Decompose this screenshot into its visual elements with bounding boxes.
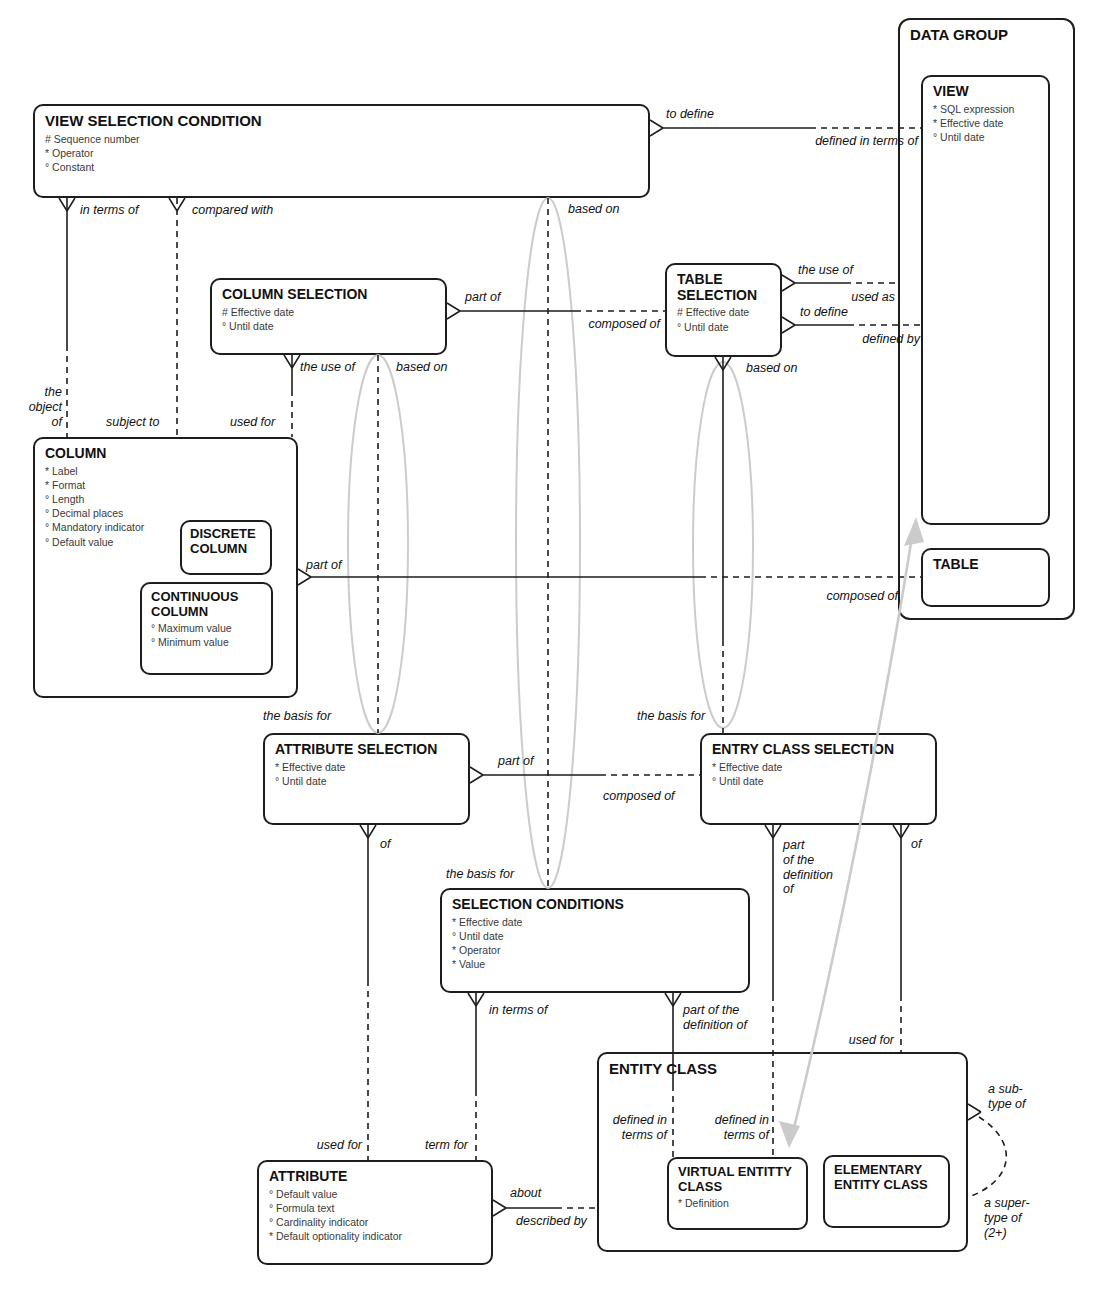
- entity-attribute-selection: ATTRIBUTE SELECTION * Effective date ° U…: [263, 733, 470, 825]
- rel-label-composed-of-table: composed of: [810, 589, 898, 604]
- entity-attribute: * Default optionality indicator: [269, 1229, 481, 1243]
- entity-virtual-entity-class: VIRTUAL ENTITTY CLASS * Definition: [667, 1157, 808, 1230]
- entity-title: ENTITY CLASS: [609, 1061, 956, 1078]
- rel-label-used-as: used as: [830, 290, 895, 305]
- entity-attribute: * Effective date: [275, 760, 458, 774]
- rel-label-part-of-attrsel: part of: [498, 754, 533, 769]
- entity-title: VIRTUAL ENTITTY CLASS: [678, 1165, 797, 1194]
- entity-attribute: ATTRIBUTE ° Default value ° Formula text…: [257, 1160, 493, 1265]
- er-diagram-canvas: VIEW SELECTION CONDITION # Sequence numb…: [0, 0, 1096, 1293]
- entity-attribute: ° Maximum value: [151, 621, 262, 635]
- entity-entry-class-selection: ENTRY CLASS SELECTION * Effective date °…: [700, 733, 937, 825]
- entity-title: DISCRETE COLUMN: [190, 527, 262, 556]
- entity-attribute: * Effective date: [452, 915, 738, 929]
- entity-attribute: * Value: [452, 957, 738, 971]
- entity-title: SELECTION CONDITIONS: [452, 897, 738, 913]
- entity-discrete-column: DISCRETE COLUMN: [180, 520, 272, 575]
- entity-attribute: ° Decimal places: [45, 506, 286, 520]
- rel-label-the-object-of: the object of: [18, 385, 62, 429]
- entity-continuous-column: CONTINUOUS COLUMN ° Maximum value ° Mini…: [140, 582, 273, 675]
- rel-label-a-sub-type-of: a sub- type of: [988, 1082, 1026, 1112]
- entity-view: VIEW * SQL expression * Effective date °…: [921, 75, 1050, 525]
- entity-title: VIEW: [933, 84, 1038, 100]
- entity-table-selection: TABLE SELECTION # Effective date ° Until…: [665, 263, 782, 357]
- entity-title: TABLE SELECTION: [677, 272, 770, 303]
- entity-attribute: # Effective date: [222, 305, 435, 319]
- entity-attribute: * Label: [45, 464, 286, 478]
- entity-title: ATTRIBUTE: [269, 1169, 481, 1185]
- rel-label-part-of-def-entrysel: part of the definition of: [783, 838, 833, 897]
- entity-title: ELEMENTARY ENTITY CLASS: [834, 1163, 939, 1192]
- entity-attribute: # Effective date: [677, 305, 770, 319]
- rel-label-to-define-top: to define: [666, 107, 714, 122]
- rel-label-defined-in-terms-of-right: defined in terms of: [697, 1113, 769, 1143]
- entity-attribute: ° Until date: [712, 774, 925, 788]
- rel-label-basis-for-selcond: the basis for: [446, 867, 514, 882]
- entity-title: ATTRIBUTE SELECTION: [275, 742, 458, 758]
- entity-attribute: ° Formula text: [269, 1201, 481, 1215]
- rel-label-part-of-column: part of: [306, 558, 341, 573]
- rel-label-to-define-tabsel: to define: [800, 305, 848, 320]
- rel-label-part-of-colsel: part of: [465, 290, 500, 305]
- entity-title: TABLE: [933, 557, 1038, 573]
- entity-attribute: # Sequence number: [45, 132, 638, 146]
- rel-label-about: about: [510, 1186, 541, 1201]
- entity-table: TABLE: [921, 548, 1050, 607]
- entity-column-selection: COLUMN SELECTION # Effective date ° Unti…: [210, 278, 447, 355]
- entity-title: COLUMN: [45, 446, 286, 462]
- entity-attribute: ° Constant: [45, 160, 638, 174]
- entity-title: ENTRY CLASS SELECTION: [712, 742, 925, 758]
- rel-label-basis-for-entrysel: the basis for: [637, 709, 705, 724]
- rel-label-a-super-type-of: a super- type of (2+): [984, 1196, 1030, 1240]
- entity-view-selection-condition: VIEW SELECTION CONDITION # Sequence numb…: [33, 104, 650, 198]
- rel-label-basis-for-attrsel: the basis for: [263, 709, 331, 724]
- rel-label-based-on-colsel: based on: [396, 360, 447, 375]
- rel-label-in-terms-of-selcond: in terms of: [489, 1003, 547, 1018]
- entity-attribute: ° Until date: [933, 130, 1038, 144]
- entity-attribute: ° Length: [45, 492, 286, 506]
- rel-label-defined-in-terms-of: defined in terms of: [793, 134, 918, 149]
- rel-label-based-on-tabsel: based on: [746, 361, 797, 376]
- rel-label-composed-of-entrysel: composed of: [603, 789, 675, 804]
- rel-label-used-for-entity: used for: [832, 1033, 894, 1048]
- rel-label-composed-of-tabsel: composed of: [572, 317, 660, 332]
- entity-title: DATA GROUP: [910, 27, 1063, 44]
- rel-label-term-for: term for: [416, 1138, 468, 1153]
- rel-label-subject-to: subject to: [106, 415, 160, 430]
- entity-title: COLUMN SELECTION: [222, 287, 435, 303]
- rel-label-the-use-of-right: the use of: [798, 263, 853, 278]
- rel-label-the-use-of-colsel: the use of: [300, 360, 355, 375]
- entity-attribute: * Operator: [452, 943, 738, 957]
- rel-label-defined-in-terms-of-left: defined in terms of: [595, 1113, 667, 1143]
- entity-selection-conditions: SELECTION CONDITIONS * Effective date ° …: [440, 888, 750, 993]
- entity-attribute: ° Cardinality indicator: [269, 1215, 481, 1229]
- entity-attribute: * SQL expression: [933, 102, 1038, 116]
- rel-label-part-of-def-selcond: part of the definition of: [683, 1003, 747, 1033]
- rel-label-of-attrsel: of: [380, 837, 390, 852]
- rel-label-of-entrysel: of: [911, 837, 921, 852]
- entity-attribute: ° Until date: [677, 320, 770, 334]
- entity-attribute: * Effective date: [712, 760, 925, 774]
- entity-attribute: ° Until date: [275, 774, 458, 788]
- rel-label-based-on-middle: based on: [568, 202, 619, 217]
- entity-attribute: ° Minimum value: [151, 635, 262, 649]
- rel-label-in-terms-of: in terms of: [80, 203, 138, 218]
- entity-attribute: ° Until date: [222, 319, 435, 333]
- entity-attribute: * Operator: [45, 146, 638, 160]
- entity-attribute: ° Default value: [269, 1187, 481, 1201]
- entity-title: VIEW SELECTION CONDITION: [45, 113, 638, 130]
- entity-title: CONTINUOUS COLUMN: [151, 590, 262, 619]
- rel-label-used-for-column: used for: [230, 415, 275, 430]
- entity-attribute: * Effective date: [933, 116, 1038, 130]
- rel-label-used-for-attr: used for: [310, 1138, 362, 1153]
- entity-elementary-entity-class: ELEMENTARY ENTITY CLASS: [823, 1155, 950, 1228]
- entity-attribute: * Format: [45, 478, 286, 492]
- rel-label-defined-by: defined by: [845, 332, 920, 347]
- rel-label-described-by: described by: [516, 1214, 587, 1229]
- entity-attribute: * Definition: [678, 1196, 797, 1210]
- rel-label-compared-with: compared with: [192, 203, 273, 218]
- entity-attribute: ° Until date: [452, 929, 738, 943]
